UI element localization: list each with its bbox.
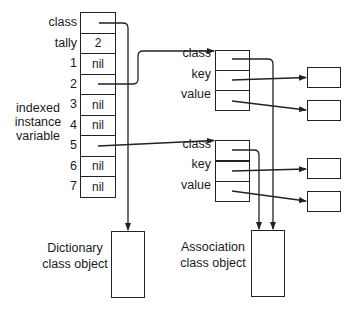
slot-label-3: 3 — [70, 97, 77, 111]
assoc1-slot-key — [215, 70, 250, 91]
assoc1-label-key: key — [192, 67, 211, 81]
dict-slot-7: nil — [80, 176, 116, 198]
slot-label-2: 2 — [70, 77, 77, 91]
slot-label-1: 1 — [70, 56, 77, 70]
assoc2-slot-key — [215, 161, 250, 182]
slot-label-tally: tally — [55, 36, 77, 50]
slot-label-5: 5 — [70, 138, 77, 152]
association-class-caption-line1: Association — [176, 239, 250, 255]
dict-slot-4: nil — [80, 115, 116, 137]
assoc2-key-object — [307, 158, 341, 179]
indexed-label: indexed — [10, 101, 66, 115]
association-class-caption-line2: class object — [176, 255, 250, 271]
slot-label-7: 7 — [70, 179, 77, 193]
assoc2-label-class: class — [183, 137, 211, 151]
dict-slot-class — [80, 12, 116, 34]
association-class-object — [251, 230, 285, 297]
assoc1-label-class: class — [183, 46, 211, 60]
instance-label: instance — [8, 115, 68, 129]
assoc1-slot-value — [215, 90, 250, 111]
smalltalk-dictionary-diagram: class tally 1 2 3 4 5 6 7 indexed instan… — [0, 0, 350, 309]
assoc2-label-key: key — [192, 157, 211, 171]
variable-label: variable — [8, 129, 68, 143]
dictionary-class-caption-line2: class object — [40, 256, 110, 272]
assoc2-label-value: value — [181, 178, 211, 192]
assoc2-slot-value — [215, 181, 250, 202]
dict-slot-6: nil — [80, 156, 116, 178]
assoc1-slot-class — [215, 50, 250, 71]
assoc1-value-object — [307, 100, 341, 121]
assoc1-label-value: value — [181, 87, 211, 101]
dictionary-class-caption-line1: Dictionary — [40, 240, 110, 256]
assoc2-slot-class — [215, 140, 250, 161]
dict-slot-5 — [80, 135, 116, 157]
assoc1-key-object — [307, 67, 341, 88]
dict-slot-1: nil — [80, 53, 116, 75]
dict-slot-3: nil — [80, 94, 116, 116]
dict-slot-2 — [80, 74, 116, 96]
slot-label-6: 6 — [70, 159, 77, 173]
dictionary-class-object — [111, 231, 145, 298]
assoc2-value-object — [307, 191, 341, 212]
slot-label-4: 4 — [70, 118, 77, 132]
dict-slot-tally: 2 — [80, 33, 116, 55]
slot-label-class: class — [49, 15, 77, 29]
